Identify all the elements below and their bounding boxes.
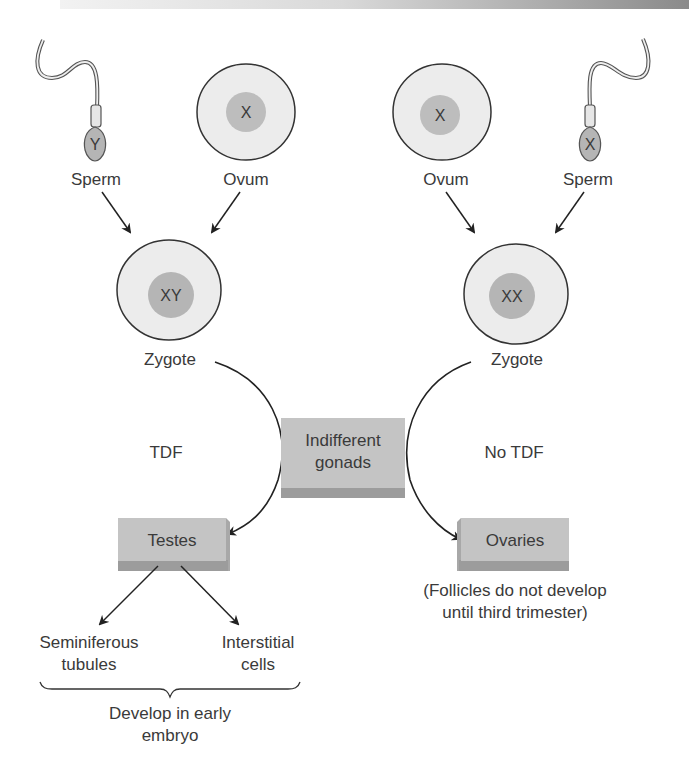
arrow-testes-to-interstitial bbox=[181, 566, 238, 624]
arrow-sperm-to-zygote-xy bbox=[102, 192, 130, 232]
zygote-xy-icon: XY bbox=[117, 240, 221, 340]
arrow-zygote-xx-to-ovaries bbox=[407, 362, 471, 539]
curly-brace bbox=[40, 682, 300, 697]
interstitial-line1: Interstitial bbox=[222, 633, 295, 652]
follicles-note-line1: (Follicles do not develop bbox=[423, 581, 606, 600]
zygote-xx-chromosomes: XX bbox=[501, 288, 523, 305]
tdf-label: TDF bbox=[149, 443, 182, 462]
ovum-left-label: Ovum bbox=[223, 170, 268, 189]
testes-label: Testes bbox=[147, 531, 196, 550]
sperm-y-icon: Y bbox=[37, 40, 105, 161]
ovum-right-label: Ovum bbox=[423, 170, 468, 189]
seminiferous-line2: tubules bbox=[62, 655, 117, 674]
sperm-left-chromosome: Y bbox=[90, 136, 101, 153]
zygote-right-label: Zygote bbox=[491, 350, 543, 369]
follicles-note-line2: until third trimester) bbox=[442, 603, 587, 622]
indifferent-gonads-line2: gonads bbox=[315, 453, 371, 472]
testes-box: Testes bbox=[118, 518, 230, 571]
zygote-left-label: Zygote bbox=[144, 350, 196, 369]
arrow-sperm-to-zygote-xx bbox=[556, 192, 584, 232]
zygote-xx-icon: XX bbox=[464, 244, 568, 344]
arrow-testes-to-tubules bbox=[100, 566, 158, 624]
ovum-left-chromosome: X bbox=[241, 104, 252, 121]
sperm-right-chromosome: X bbox=[585, 136, 596, 153]
seminiferous-line1: Seminiferous bbox=[39, 633, 138, 652]
arrow-ovum-to-zygote-xx bbox=[446, 192, 474, 232]
arrow-ovum-to-zygote-xy bbox=[212, 192, 240, 232]
ovum-right-chromosome: X bbox=[435, 107, 446, 124]
indifferent-gonads-box: Indifferent gonads bbox=[281, 418, 405, 498]
indifferent-gonads-line1: Indifferent bbox=[305, 431, 381, 450]
interstitial-line2: cells bbox=[241, 655, 275, 674]
ovaries-box: Ovaries bbox=[457, 518, 569, 571]
ovum-left-icon: X bbox=[197, 64, 295, 160]
sperm-right-label: Sperm bbox=[563, 170, 613, 189]
sperm-x-icon: X bbox=[579, 39, 648, 161]
sperm-left-label: Sperm bbox=[71, 170, 121, 189]
ovum-right-icon: X bbox=[393, 64, 491, 160]
sex-determination-diagram: Y Sperm X Ovum X Ovum X Sperm XY Zygote … bbox=[0, 0, 689, 763]
develop-note-line1: Develop in early bbox=[109, 704, 231, 723]
develop-note-line2: embryo bbox=[142, 726, 199, 745]
zygote-xy-chromosomes: XY bbox=[160, 287, 182, 304]
arrow-zygote-xy-to-testes bbox=[215, 362, 282, 534]
ovaries-label: Ovaries bbox=[486, 531, 545, 550]
no-tdf-label: No TDF bbox=[484, 443, 543, 462]
